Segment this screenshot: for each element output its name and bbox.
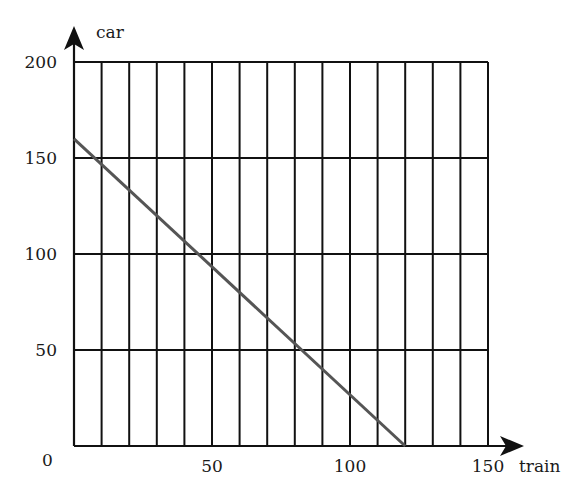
chart: 5010015050100150200 train car 0	[0, 0, 574, 487]
y-tick-label: 150	[25, 148, 57, 168]
y-axis-label: car	[96, 22, 125, 42]
x-tick-label: 50	[201, 456, 223, 476]
origin-label: 0	[42, 450, 53, 470]
x-axis-label: train	[519, 456, 561, 476]
y-tick-label: 100	[25, 244, 57, 264]
grid	[74, 62, 488, 446]
x-tick-label: 150	[472, 456, 504, 476]
y-tick-label: 50	[35, 340, 57, 360]
x-tick-label: 100	[334, 456, 366, 476]
y-tick-label: 200	[25, 52, 57, 72]
